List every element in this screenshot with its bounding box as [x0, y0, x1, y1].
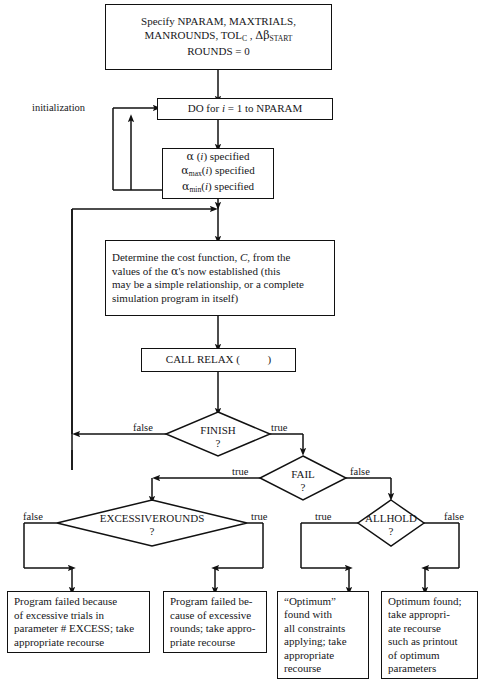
node-term-optimum-found-line-3: ate recourse: [388, 622, 441, 636]
label-initialization: initialization: [32, 102, 85, 113]
node-alpha-line-2: αmax(i) specified: [181, 164, 254, 180]
node-alpha-line-3: αmin(i) specified: [182, 180, 254, 196]
node-term-optimum-quoted-line-2: found with: [284, 608, 332, 622]
node-do-loop: DO for i = 1 to NPARAM: [157, 98, 333, 120]
edge-label-fail-true: true: [232, 466, 248, 477]
node-term-optimum-found-line-2: take appropri-: [388, 608, 450, 622]
node-cost-line-2: values of the α's now established (this: [112, 265, 280, 279]
node-call-relax-line-1: CALL RELAX ( ): [166, 353, 271, 367]
edge-label-allhold-true: true: [315, 511, 331, 522]
edge-label-allhold-false: false: [444, 511, 464, 522]
node-cost: Determine the cost function, C, from the…: [105, 240, 335, 316]
node-term-trials-line-3: parameter # EXCESS; take: [14, 622, 134, 636]
node-term-trials-line-1: Program failed because: [14, 595, 117, 609]
node-term-optimum-quoted-line-1: “Optimum”: [284, 595, 336, 609]
node-cost-line-4: simulation program in itself): [112, 292, 238, 306]
edge-label-finish-true: true: [271, 422, 287, 433]
decision-fail-shape: [260, 456, 346, 500]
node-term-optimum-quoted-line-5: appropriate: [284, 649, 334, 663]
flowchart-canvas: Specify NPARAM, MAXTRIALS, MANROUNDS, TO…: [0, 0, 489, 683]
decision-finish-shape: [166, 412, 270, 456]
node-term-optimum-quoted-line-4: applying; take: [284, 635, 347, 649]
node-specify-line-2: MANROUNDS, TOLC , ΔβSTART: [144, 29, 292, 45]
node-alpha-line-1: α (i) specified: [186, 150, 249, 164]
decision-allhold-shape: [358, 500, 424, 546]
node-cost-line-1: Determine the cost function, C, from the: [112, 251, 290, 265]
node-term-optimum-found-line-6: parameters: [388, 662, 436, 676]
node-term-optimum-found-line-5: of optimum: [388, 649, 440, 663]
node-term-trials-line-2: of excessive trials in: [14, 609, 104, 623]
node-term-trials: Program failed because of excessive tria…: [7, 591, 150, 653]
node-alpha: α (i) specified αmax(i) specified αmin(i…: [162, 148, 274, 199]
node-term-optimum-quoted: “Optimum” found with all constraints app…: [277, 591, 369, 679]
edge-label-finish-false: false: [133, 422, 153, 433]
node-cost-line-3: may be a simple relationship, or a compl…: [112, 278, 304, 292]
node-term-rounds-line-1: Program failed be-: [170, 595, 252, 609]
node-term-optimum-found-line-4: such as printout: [388, 635, 458, 649]
node-term-optimum-found-line-1: Optimum found;: [388, 595, 462, 609]
node-specify-line-1: Specify NPARAM, MAXTRIALS,: [141, 15, 296, 29]
node-term-rounds-line-4: priate recourse: [170, 636, 235, 650]
node-term-optimum-quoted-line-3: all constraints: [284, 622, 345, 636]
node-term-trials-line-4: appropriate recourse: [14, 636, 104, 650]
edge-label-fail-false: false: [350, 466, 370, 477]
node-term-optimum-found: Optimum found; take appropri- ate recour…: [381, 591, 478, 679]
edge-label-excessiverounds-true: true: [251, 511, 267, 522]
node-call-relax: CALL RELAX ( ): [141, 348, 296, 372]
node-do-loop-line-1: DO for i = 1 to NPARAM: [188, 102, 303, 116]
node-term-rounds: Program failed be- cause of excessive ro…: [163, 591, 267, 653]
node-term-optimum-quoted-line-6: recourse: [284, 662, 321, 676]
node-specify-line-3: ROUNDS = 0: [187, 45, 249, 59]
edge-label-excessiverounds-false: false: [23, 511, 43, 522]
node-term-rounds-line-3: rounds; take appro-: [170, 622, 256, 636]
decision-excessiverounds-shape: [57, 500, 247, 546]
node-term-rounds-line-2: cause of excessive: [170, 609, 251, 623]
node-specify: Specify NPARAM, MAXTRIALS, MANROUNDS, TO…: [105, 4, 332, 70]
